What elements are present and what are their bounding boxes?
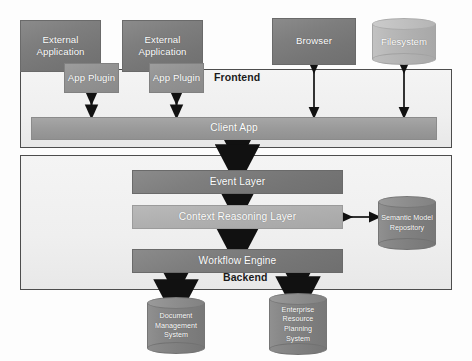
document-management-system-label: Document Management System	[147, 297, 205, 354]
app-plugin-box-2[interactable]: App Plugin	[149, 63, 204, 93]
browser-box[interactable]: Browser	[272, 18, 356, 65]
context-reasoning-layer-bar[interactable]: Context Reasoning Layer	[132, 205, 343, 229]
client-app-bar[interactable]: Client App	[31, 117, 437, 140]
app-plugin-box-1[interactable]: App Plugin	[64, 63, 119, 93]
backend-zone-label: Backend	[223, 271, 267, 283]
enterprise-resource-planning-system-label: Enterprise Resource Planning System	[269, 293, 327, 355]
document-management-system-cylinder[interactable]: Document Management System	[147, 297, 205, 354]
event-layer-bar[interactable]: Event Layer	[132, 170, 343, 194]
architecture-diagram: External Application External Applicatio…	[0, 0, 472, 361]
filesystem-label: Filesystem	[372, 18, 436, 65]
frontend-zone-label: Frontend	[214, 71, 260, 83]
workflow-engine-bar[interactable]: Workflow Engine	[132, 249, 343, 273]
enterprise-resource-planning-system-cylinder[interactable]: Enterprise Resource Planning System	[269, 293, 327, 355]
semantic-model-repository-label: Semantic Model Repository	[378, 196, 436, 250]
filesystem-cylinder[interactable]: Filesystem	[372, 18, 436, 65]
semantic-model-repository-cylinder[interactable]: Semantic Model Repository	[378, 196, 436, 250]
